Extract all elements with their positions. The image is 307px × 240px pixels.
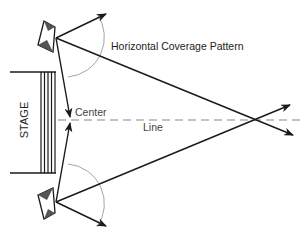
stage: STAGE [10,72,56,173]
line-label: Line [143,121,163,133]
diagram-canvas: STAGE Center Line Horizontal Coverage Pa… [0,0,307,240]
top-speaker-icon [38,21,55,52]
speaker-coverage-diagram: STAGE Center Line Horizontal Coverage Pa… [0,0,307,240]
bottom-speaker-icon [38,188,55,219]
center-label: Center [75,106,107,118]
stage-label: STAGE [18,102,30,138]
coverage-label: Horizontal Coverage Pattern [111,40,244,52]
